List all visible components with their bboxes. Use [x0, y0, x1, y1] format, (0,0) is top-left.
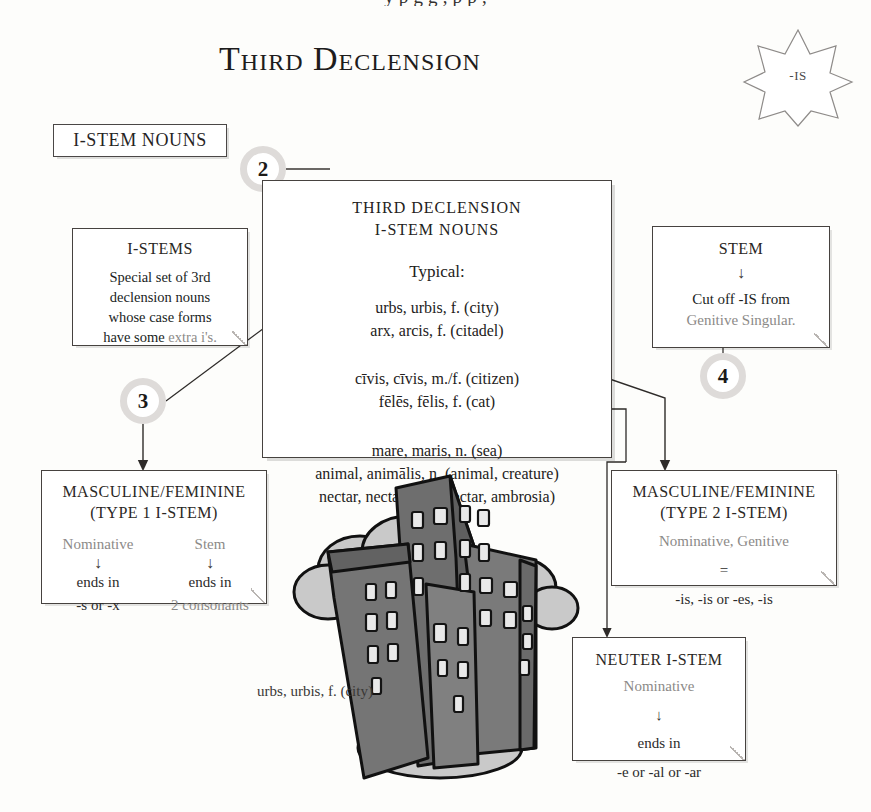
folded-corner-icon [730, 745, 746, 761]
istems-note-title: I-STEMS [73, 240, 247, 258]
neuter-line-1: Nominative [573, 675, 745, 698]
type2-line-2: -is, -is or -es, -is [612, 588, 836, 611]
city-caption: urbs, urbis, f. (city) [215, 683, 415, 700]
istems-line-4-gray: extra i's. [168, 329, 217, 345]
worksheet-page: y p g g , p p , Third Declension -IS [0, 0, 871, 812]
section-chip-istem-nouns: I-STEM NOUNS [53, 124, 227, 157]
istems-definition-note: I-STEMS Special set of 3rd declension no… [72, 228, 248, 346]
example-entry: arx, arcis, f. (citadel) [263, 319, 611, 342]
folded-corner-icon [232, 330, 248, 346]
type1-right-head: Stem [154, 533, 266, 556]
type2-line-1: Nominative, Genitive [612, 530, 836, 553]
type2-equals: = [612, 559, 836, 582]
step-marker-3[interactable]: 3 [120, 378, 166, 424]
main-box-header: THIRD DECLENSION I-STEM NOUNS [263, 197, 611, 240]
starburst-label: -IS [742, 68, 854, 84]
type1-title-line1: MASCULINE/FEMININE [42, 482, 266, 503]
starburst-badge: -IS [742, 26, 854, 130]
type1-nominative-column: Nominative ↓ ends in -s or -x [42, 533, 154, 617]
city-skyscrapers-illustration [268, 448, 598, 788]
city-icon [268, 448, 598, 788]
neuter-line-2: ends in [573, 732, 745, 755]
istems-line-4: have some extra i's. [73, 327, 247, 347]
type2-istem-note: MASCULINE/FEMININE (TYPE 2 I-STEM) Nomin… [611, 470, 837, 586]
step-marker-4[interactable]: 4 [700, 353, 746, 399]
example-entry: urbs, urbis, f. (city) [263, 296, 611, 319]
main-examples-box: THIRD DECLENSION I-STEM NOUNS Typical: u… [262, 180, 612, 458]
type1-left-mid: ends in [42, 571, 154, 594]
down-arrow-icon: ↓ [573, 704, 745, 727]
main-box-header-line2: I-STEM NOUNS [263, 219, 611, 241]
stem-line-2: Genitive Singular. [653, 310, 829, 331]
stem-line-1: Cut off -IS from [653, 289, 829, 310]
type1-title-line2: (TYPE 1 I-STEM) [42, 503, 266, 524]
cut-off-text-line: y p g g , p p , [0, 0, 871, 6]
stem-instruction-note: STEM ↓ Cut off -IS from Genitive Singula… [652, 226, 830, 348]
istems-line-3: whose case forms [73, 307, 247, 327]
istems-line-4-black: have some [103, 329, 168, 345]
example-group-common: cīvis, cīvis, m./f. (citizen) fēlēs, fēl… [263, 367, 611, 413]
type2-title: MASCULINE/FEMININE (TYPE 2 I-STEM) [612, 482, 836, 524]
folded-corner-icon [814, 332, 830, 348]
type1-columns: Nominative ↓ ends in -s or -x Stem ↓ end… [42, 533, 266, 617]
example-entry: fēlēs, fēlis, f. (cat) [263, 390, 611, 413]
istems-line-1: Special set of 3rd [73, 267, 247, 287]
neuter-line-3: -e or -al or -ar [573, 761, 745, 784]
type1-right-mid: ends in [154, 571, 266, 594]
down-arrow-icon: ↓ [42, 555, 154, 571]
main-box-header-line1: THIRD DECLENSION [263, 197, 611, 219]
type1-title: MASCULINE/FEMININE (TYPE 1 I-STEM) [42, 482, 266, 524]
type1-istem-note: MASCULINE/FEMININE (TYPE 1 I-STEM) Nomin… [41, 470, 267, 604]
down-arrow-icon: ↓ [154, 555, 266, 571]
down-arrow-icon: ↓ [653, 265, 829, 281]
istems-note-body: Special set of 3rd declension nouns whos… [73, 267, 247, 347]
page-title: Third Declension [0, 40, 700, 78]
typical-label: Typical: [263, 262, 611, 282]
type1-left-tail: -s or -x [42, 594, 154, 617]
type1-right-tail: 2 consonants [154, 594, 266, 617]
stem-note-body: Cut off -IS from Genitive Singular. [653, 289, 829, 330]
example-entry: cīvis, cīvis, m./f. (citizen) [263, 367, 611, 390]
neuter-istem-note: NEUTER I-STEM Nominative ↓ ends in -e or… [572, 637, 746, 761]
type2-title-line1: MASCULINE/FEMININE [612, 482, 836, 503]
istems-line-2: declension nouns [73, 287, 247, 307]
folded-corner-icon [821, 570, 837, 586]
folded-corner-icon [251, 588, 267, 604]
stem-note-title: STEM [653, 240, 829, 258]
neuter-title: NEUTER I-STEM [573, 651, 745, 669]
example-group-feminine: urbs, urbis, f. (city) arx, arcis, f. (c… [263, 296, 611, 342]
type1-stem-column: Stem ↓ ends in 2 consonants [154, 533, 266, 617]
type2-title-line2: (TYPE 2 I-STEM) [612, 503, 836, 524]
type1-left-head: Nominative [42, 533, 154, 556]
